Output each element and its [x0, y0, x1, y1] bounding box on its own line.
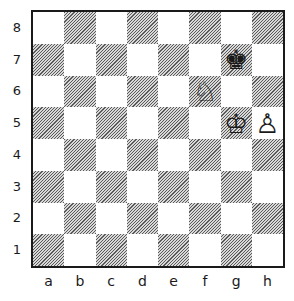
chessboard: ♚♘♔♙ [31, 10, 285, 268]
square-e7[interactable] [158, 44, 189, 76]
square-g7[interactable]: ♚ [221, 44, 252, 76]
square-c8[interactable] [96, 12, 127, 44]
square-f3[interactable] [189, 171, 220, 203]
square-e6[interactable] [158, 76, 189, 108]
square-c1[interactable] [96, 234, 127, 266]
square-b4[interactable] [64, 139, 95, 171]
square-e2[interactable] [158, 203, 189, 235]
square-b8[interactable] [64, 12, 95, 44]
square-d2[interactable] [127, 203, 158, 235]
square-c5[interactable] [96, 107, 127, 139]
square-h2[interactable] [252, 203, 283, 235]
square-d8[interactable] [127, 12, 158, 44]
square-g6[interactable] [221, 76, 252, 108]
square-c7[interactable] [96, 44, 127, 76]
square-b6[interactable] [64, 76, 95, 108]
rank-label-4: 4 [10, 147, 24, 162]
square-h6[interactable] [252, 76, 283, 108]
square-g3[interactable] [221, 171, 252, 203]
white-knight-icon[interactable]: ♘ [193, 78, 217, 105]
square-c3[interactable] [96, 171, 127, 203]
square-d1[interactable] [127, 234, 158, 266]
black-king-icon[interactable]: ♚ [224, 46, 248, 73]
square-h5[interactable]: ♙ [252, 107, 283, 139]
square-g8[interactable] [221, 12, 252, 44]
square-d6[interactable] [127, 76, 158, 108]
square-a4[interactable] [33, 139, 64, 171]
square-h1[interactable] [252, 234, 283, 266]
square-b1[interactable] [64, 234, 95, 266]
file-label-a: a [39, 273, 59, 289]
square-f8[interactable] [189, 12, 220, 44]
square-c2[interactable] [96, 203, 127, 235]
square-c4[interactable] [96, 139, 127, 171]
square-b2[interactable] [64, 203, 95, 235]
square-h8[interactable] [252, 12, 283, 44]
square-a7[interactable] [33, 44, 64, 76]
rank-label-6: 6 [10, 83, 24, 98]
square-f6[interactable]: ♘ [189, 76, 220, 108]
file-label-c: c [101, 273, 121, 289]
file-label-e: e [164, 273, 184, 289]
file-label-f: f [195, 273, 215, 289]
white-king-icon[interactable]: ♔ [224, 110, 248, 137]
rank-label-3: 3 [10, 179, 24, 194]
square-h7[interactable] [252, 44, 283, 76]
file-label-h: h [257, 273, 277, 289]
rank-label-7: 7 [10, 52, 24, 67]
square-a1[interactable] [33, 234, 64, 266]
square-f7[interactable] [189, 44, 220, 76]
square-b3[interactable] [64, 171, 95, 203]
square-g2[interactable] [221, 203, 252, 235]
square-a8[interactable] [33, 12, 64, 44]
square-d4[interactable] [127, 139, 158, 171]
rank-label-2: 2 [10, 210, 24, 225]
square-a3[interactable] [33, 171, 64, 203]
square-f4[interactable] [189, 139, 220, 171]
square-g4[interactable] [221, 139, 252, 171]
square-h4[interactable] [252, 139, 283, 171]
square-e5[interactable] [158, 107, 189, 139]
square-h3[interactable] [252, 171, 283, 203]
file-label-b: b [70, 273, 90, 289]
square-b7[interactable] [64, 44, 95, 76]
square-d5[interactable] [127, 107, 158, 139]
square-f2[interactable] [189, 203, 220, 235]
square-g5[interactable]: ♔ [221, 107, 252, 139]
square-a2[interactable] [33, 203, 64, 235]
rank-label-1: 1 [10, 242, 24, 257]
rank-label-5: 5 [10, 115, 24, 130]
square-f5[interactable] [189, 107, 220, 139]
square-g1[interactable] [221, 234, 252, 266]
square-e1[interactable] [158, 234, 189, 266]
file-label-d: d [132, 273, 152, 289]
square-d7[interactable] [127, 44, 158, 76]
square-b5[interactable] [64, 107, 95, 139]
white-pawn-icon[interactable]: ♙ [255, 110, 279, 137]
file-label-g: g [226, 273, 246, 289]
square-a6[interactable] [33, 76, 64, 108]
square-f1[interactable] [189, 234, 220, 266]
rank-label-8: 8 [10, 20, 24, 35]
square-c6[interactable] [96, 76, 127, 108]
square-e3[interactable] [158, 171, 189, 203]
square-d3[interactable] [127, 171, 158, 203]
square-e4[interactable] [158, 139, 189, 171]
square-a5[interactable] [33, 107, 64, 139]
square-e8[interactable] [158, 12, 189, 44]
